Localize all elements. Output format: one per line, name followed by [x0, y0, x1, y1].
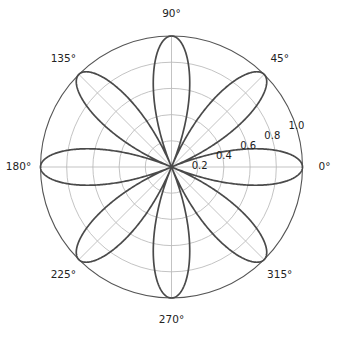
radial-tick-label-0.8: 0.8	[264, 130, 280, 141]
radial-tick-labels-group: 0.20.40.60.81.0	[192, 120, 305, 171]
radial-tick-label-1.0: 1.0	[289, 120, 305, 131]
polar-chart-figure: 0°45°90°135°180°225°270°315° 0.20.40.60.…	[0, 0, 342, 337]
radial-tick-label-0.6: 0.6	[240, 140, 256, 151]
radial-tick-label-0.4: 0.4	[216, 150, 232, 161]
angular-tick-label-90: 90°	[162, 7, 181, 19]
angular-tick-label-180: 180°	[6, 160, 31, 172]
angular-tick-label-270: 270°	[159, 313, 184, 325]
angular-tick-label-0: 0°	[319, 160, 331, 172]
angular-tick-label-45: 45°	[270, 52, 289, 64]
angular-tick-label-315: 315°	[267, 268, 292, 280]
angular-tick-label-225: 225°	[51, 268, 76, 280]
angular-tick-label-135: 135°	[51, 52, 76, 64]
polar-plot-canvas: 0°45°90°135°180°225°270°315° 0.20.40.60.…	[0, 0, 342, 337]
radial-tick-label-0.2: 0.2	[192, 160, 208, 171]
